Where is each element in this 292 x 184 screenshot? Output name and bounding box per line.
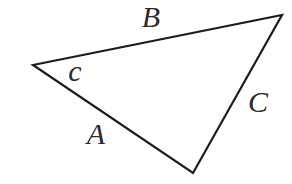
- triangle-diagram-canvas: B c C A: [0, 0, 292, 184]
- angle-label-c: c: [68, 54, 81, 87]
- triangle-diagram: B c C A: [0, 0, 292, 184]
- triangle-outline: [33, 15, 282, 173]
- side-label-a: A: [85, 117, 106, 150]
- side-label-b: B: [142, 0, 160, 33]
- side-label-c-capital: C: [248, 85, 269, 118]
